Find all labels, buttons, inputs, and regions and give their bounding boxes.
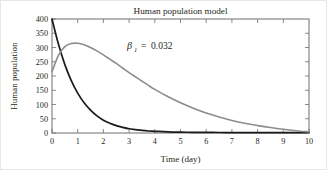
x-tick-label: 3: [127, 137, 131, 146]
x-tick-label: 5: [178, 137, 182, 146]
y-tick-label: 350: [36, 29, 48, 38]
plot-frame: [52, 19, 309, 133]
x-tick-label: 1: [76, 137, 80, 146]
figure-container: 0 1 2 3 4 5 6 7 8 9 10 0 50 100 150 200 …: [0, 0, 327, 170]
y-tick-label: 400: [36, 15, 48, 24]
series-line-infected: [52, 43, 309, 132]
x-tick-label: 2: [101, 137, 105, 146]
y-tick-label: 200: [36, 72, 48, 81]
y-tick-labels: 0 50 100 150 200 250 300 350 400: [36, 15, 48, 138]
x-tick-label: 0: [50, 137, 54, 146]
x-tick-labels: 0 1 2 3 4 5 6 7 8 9 10: [50, 137, 313, 146]
y-tick-label: 0: [44, 129, 48, 138]
y-axis-ticks: [52, 19, 309, 133]
x-tick-label: 10: [305, 137, 313, 146]
x-axis-title: Time (day): [161, 154, 201, 164]
y-tick-label: 300: [36, 44, 48, 53]
x-tick-label: 8: [256, 137, 260, 146]
y-tick-label: 150: [36, 86, 48, 95]
y-tick-label: 100: [36, 101, 48, 110]
beta-operator: =: [141, 41, 146, 51]
chart-title: Human population model: [134, 6, 228, 16]
human-population-chart: 0 1 2 3 4 5 6 7 8 9 10 0 50 100 150 200 …: [1, 1, 327, 170]
beta-subscript: 1: [134, 46, 137, 53]
y-tick-label: 50: [40, 115, 48, 124]
series-line-susceptible: [52, 19, 309, 133]
y-tick-label: 250: [36, 58, 48, 67]
x-tick-label: 9: [281, 137, 285, 146]
x-axis-ticks: [52, 19, 309, 133]
x-tick-label: 6: [204, 137, 208, 146]
beta-annotation: β 1 = 0.032: [126, 40, 173, 53]
y-axis-title: Human population: [9, 42, 19, 110]
x-tick-label: 4: [153, 137, 157, 146]
beta-symbol: β: [126, 40, 132, 51]
x-tick-label: 7: [230, 137, 234, 146]
beta-value: 0.032: [151, 41, 173, 51]
